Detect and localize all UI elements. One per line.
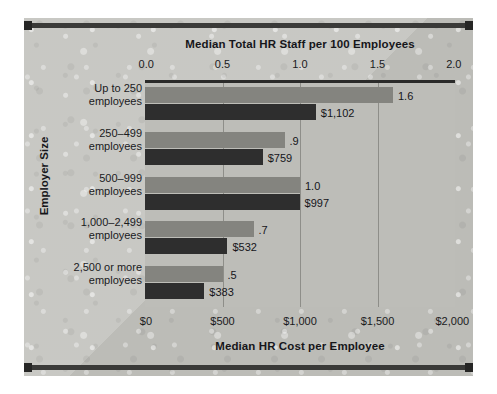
- top-axis-ticks: 0.00.51.01.52.0: [145, 58, 455, 72]
- bar-staff-2: [145, 177, 300, 193]
- category-label-1-line-1: employees: [32, 140, 142, 153]
- top-tick-label-4: 2.0: [446, 58, 461, 70]
- category-label-0: Up to 250employees: [32, 82, 142, 108]
- bottom-tick-label-3: $1,500: [361, 315, 395, 327]
- bar-cost-4: [145, 283, 204, 299]
- bar-cost-value-0: $1,102: [321, 108, 355, 119]
- bar-staff-4: [145, 266, 223, 282]
- category-label-2-line-0: 500–999: [32, 172, 142, 185]
- bar-staff-value-1: .9: [290, 136, 299, 147]
- bar-staff-value-4: .5: [228, 270, 237, 281]
- bar-staff-value-0: 1.6: [398, 91, 413, 102]
- category-label-4: 2,500 or moreemployees: [32, 261, 142, 287]
- category-label-3-line-0: 1,000–2,499: [32, 216, 142, 229]
- category-label-1: 250–499employees: [32, 127, 142, 153]
- bottom-tick-label-2: $1,000: [283, 315, 317, 327]
- chart-page: Median Total HR Staff per 100 Employees …: [0, 0, 497, 394]
- top-axis-title: Median Total HR Staff per 100 Employees: [145, 38, 455, 50]
- bar-staff-1: [145, 132, 285, 148]
- category-label-0-line-0: Up to 250: [32, 82, 142, 95]
- bar-cost-0: [145, 104, 316, 120]
- category-label-4-line-0: 2,500 or more: [32, 261, 142, 274]
- category-label-2: 500–999employees: [32, 172, 142, 198]
- bar-cost-1: [145, 149, 263, 165]
- bar-staff-value-3: .7: [259, 225, 268, 236]
- category-label-1-line-0: 250–499: [32, 127, 142, 140]
- bar-chart: Median Total HR Staff per 100 Employees …: [24, 18, 473, 376]
- bar-cost-2: [145, 194, 300, 210]
- top-tick-label-2: 1.0: [292, 58, 307, 70]
- category-label-2-line-1: employees: [32, 185, 142, 198]
- bar-cost-3: [145, 238, 227, 254]
- category-label-3: 1,000–2,499employees: [32, 216, 142, 242]
- plot-area: 1.6$1,102.9$7591.0$997.7$532.5$383: [145, 80, 455, 307]
- bar-cost-value-4: $383: [209, 287, 233, 298]
- bottom-tick-label-1: $500: [210, 315, 234, 327]
- top-tick-label-0: 0.0: [139, 58, 154, 70]
- bottom-tick-label-4: $2,000: [435, 315, 469, 327]
- category-label-0-line-1: employees: [32, 95, 142, 108]
- bar-staff-value-2: 1.0: [305, 181, 320, 192]
- gridline-3: [378, 83, 379, 307]
- bottom-tick-label-0: $0: [140, 315, 152, 327]
- top-tick-label-1: 0.5: [215, 58, 230, 70]
- category-label-3-line-1: employees: [32, 229, 142, 242]
- chart-panel: Median Total HR Staff per 100 Employees …: [24, 18, 473, 376]
- bar-cost-value-2: $997: [305, 198, 329, 209]
- bottom-axis-title: Median HR Cost per Employee: [145, 340, 455, 352]
- bar-staff-3: [145, 221, 254, 237]
- bar-cost-value-1: $759: [268, 153, 292, 164]
- bar-cost-value-3: $532: [232, 242, 256, 253]
- top-tick-label-3: 1.5: [370, 58, 385, 70]
- bar-staff-0: [145, 87, 393, 103]
- bottom-axis-ticks: $0$500$1,000$1,500$2,000: [145, 315, 455, 329]
- category-label-4-line-1: employees: [32, 274, 142, 287]
